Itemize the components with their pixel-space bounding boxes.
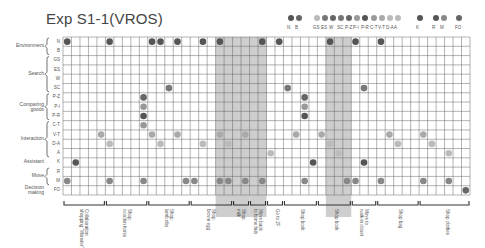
data-point xyxy=(352,178,359,185)
data-point xyxy=(106,141,113,148)
task-bracket xyxy=(64,201,104,205)
task-label: Go to 2F xyxy=(275,209,280,227)
row-label: R xyxy=(45,169,60,174)
data-point xyxy=(420,131,427,138)
row-group-label: Comparing goods xyxy=(0,102,44,112)
data-point xyxy=(64,178,71,185)
data-point xyxy=(140,122,147,129)
data-point xyxy=(217,38,224,45)
data-point xyxy=(149,38,156,45)
data-point xyxy=(420,178,427,185)
data-point xyxy=(157,141,164,148)
data-point xyxy=(140,103,147,110)
data-point xyxy=(106,178,113,185)
row-label: M xyxy=(45,178,60,183)
row-group-label: Search xyxy=(0,71,44,76)
data-point xyxy=(72,159,79,166)
row-label: C-T xyxy=(45,122,60,127)
data-point xyxy=(462,187,469,194)
data-point xyxy=(301,103,308,110)
data-point xyxy=(276,38,283,45)
data-point xyxy=(200,38,207,45)
data-point xyxy=(140,94,147,101)
row-group-label: Move xyxy=(0,173,44,178)
data-point xyxy=(327,38,334,45)
task-label: Shop: brown egg xyxy=(206,209,216,230)
task-bracket xyxy=(420,201,469,205)
row-group-label: Environment xyxy=(0,43,44,48)
row-label: P-Z xyxy=(45,94,60,99)
data-point xyxy=(183,178,190,185)
data-point xyxy=(200,141,207,148)
row-label: B xyxy=(45,48,60,53)
data-point xyxy=(225,178,232,185)
data-point xyxy=(242,131,249,138)
data-point xyxy=(310,159,317,166)
data-point xyxy=(140,178,147,185)
row-label: ES xyxy=(45,67,60,72)
data-point xyxy=(259,178,266,185)
row-label: K xyxy=(45,159,60,164)
data-point xyxy=(284,85,291,92)
task-label: Shop clothes xyxy=(445,209,450,235)
row-label: W xyxy=(45,76,60,81)
task-label: Shop: milk xyxy=(236,209,246,221)
data-point xyxy=(361,159,368,166)
data-point xyxy=(446,150,453,157)
data-point xyxy=(140,113,147,120)
task-bracket xyxy=(284,201,316,205)
data-point xyxy=(361,85,368,92)
row-group-label: Assistant xyxy=(0,159,44,164)
data-point xyxy=(344,178,351,185)
data-point xyxy=(335,150,342,157)
data-point xyxy=(293,131,300,138)
data-point xyxy=(217,178,224,185)
task-bracket xyxy=(268,201,283,205)
data-point xyxy=(191,178,198,185)
task-label: Move back to home hub xyxy=(253,209,263,234)
data-point xyxy=(267,150,274,157)
task-label: Collaboration: shopping "Monster" xyxy=(79,209,89,248)
data-point xyxy=(225,141,232,148)
task-bracket xyxy=(378,201,418,205)
data-point xyxy=(149,131,156,138)
row-label: FO xyxy=(45,187,60,192)
data-point xyxy=(429,141,436,148)
row-label: GS xyxy=(45,57,60,62)
task-label: Shop: lamb ribs xyxy=(164,209,174,227)
task-label: Shop: wooden horse xyxy=(122,209,132,237)
data-point xyxy=(378,178,385,185)
task-bracket xyxy=(149,201,189,205)
data-point xyxy=(327,141,334,148)
data-point xyxy=(242,178,249,185)
row-label: N xyxy=(45,39,60,44)
data-point xyxy=(378,38,385,45)
data-point xyxy=(174,38,181,45)
row-label: A xyxy=(45,150,60,155)
data-point xyxy=(106,38,113,45)
data-point xyxy=(386,131,393,138)
data-point xyxy=(157,38,164,45)
data-point xyxy=(259,38,266,45)
highlight-band xyxy=(326,37,351,217)
data-point xyxy=(174,131,181,138)
row-label: SC xyxy=(45,85,60,90)
row-label: D-A xyxy=(45,141,60,146)
row-group-label: Decision making xyxy=(0,185,44,195)
data-point xyxy=(301,113,308,120)
data-point xyxy=(98,131,105,138)
data-point xyxy=(301,94,308,101)
data-point xyxy=(395,141,402,148)
task-label: Shop bag xyxy=(398,209,403,228)
task-bracket xyxy=(352,201,375,205)
data-point xyxy=(166,85,173,92)
task-bracket xyxy=(106,201,146,205)
task-label: Shop book xyxy=(300,209,305,231)
data-point xyxy=(446,178,453,185)
task-label: Shop book xyxy=(334,209,339,231)
row-label: P-R xyxy=(45,113,60,118)
data-point xyxy=(352,38,359,45)
row-label: P-I xyxy=(45,104,60,109)
task-label: Move to walk-in closet xyxy=(359,209,369,236)
